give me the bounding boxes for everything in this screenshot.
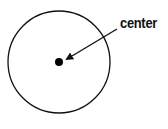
center-label: center	[120, 15, 157, 31]
center-point	[55, 58, 63, 66]
